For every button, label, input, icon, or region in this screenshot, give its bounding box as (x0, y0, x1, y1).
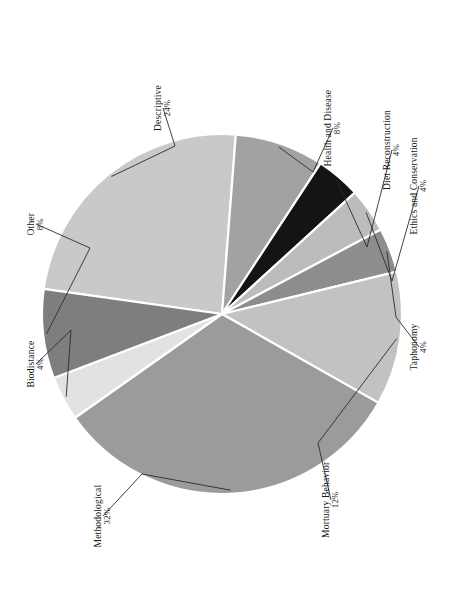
pie-slice-label: Health and Disease8% (323, 90, 343, 167)
pie-slice[interactable] (44, 134, 236, 314)
pie-slice-label: Taphonomy4% (409, 323, 429, 370)
pie-slice-label-percent: 4% (419, 137, 429, 234)
pie-slice-label: Other8% (26, 213, 46, 236)
pie-slice-label: Descriptive24% (153, 85, 173, 131)
pie-slice-label: Ethics and Conservation4% (409, 137, 429, 234)
pie-slice-label-percent: 8% (333, 90, 343, 167)
pie-chart-figure: Descriptive24%Health and Disease8%Diet R… (0, 0, 450, 595)
pie-slice-label-percent: 4% (392, 110, 402, 190)
pie-slice-label-percent: 12% (331, 462, 341, 538)
pie-slice-label: Diet Reconstruction4% (382, 110, 402, 190)
pie-slice-label: Mortuary Behavior12% (321, 462, 341, 538)
pie-slice-label-percent: 8% (36, 213, 46, 236)
pie-chart-canvas (0, 0, 450, 595)
pie-slice-group (42, 134, 402, 494)
pie-slice-label-percent: 32% (103, 485, 113, 548)
pie-slice-label: Biodistance4% (26, 341, 46, 388)
pie-slice-label-percent: 4% (36, 341, 46, 388)
pie-slice-label: Methodological32% (93, 485, 113, 548)
pie-slice-label-percent: 4% (419, 323, 429, 370)
pie-slice-label-percent: 24% (163, 85, 173, 131)
